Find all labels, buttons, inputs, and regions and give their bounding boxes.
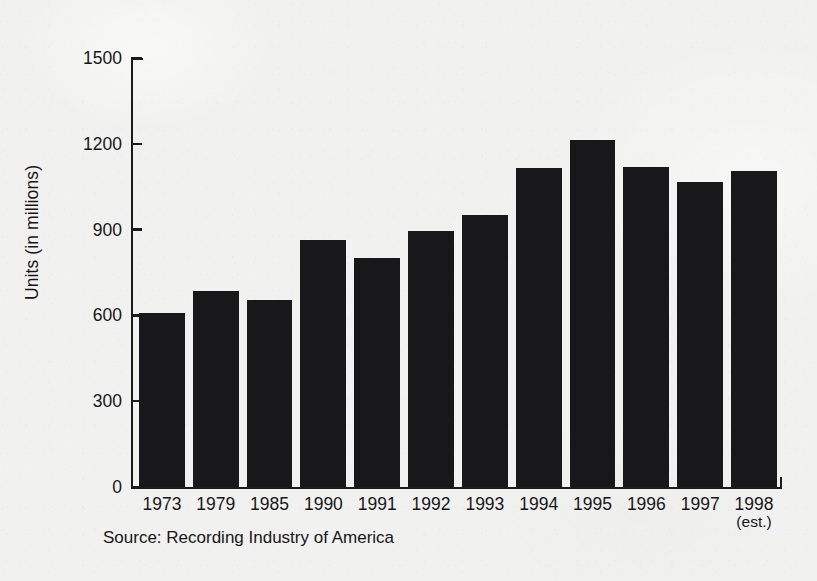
bar-1991 [354,258,400,487]
bar-1995 [570,140,616,487]
x-axis-label-text: 1979 [196,494,235,514]
bar-column-1973 [139,58,185,487]
x-axis-label-1996: 1996 [623,495,669,531]
x-axis-label-1997: 1997 [677,495,723,531]
x-axis-label-text: 1991 [358,494,397,514]
bar-1993 [462,215,508,487]
y-axis-title: Units (in millions) [22,123,43,343]
x-axis-label-1973: 1973 [139,495,185,531]
x-axis-label-text: 1997 [681,494,720,514]
x-axis-sublabel-1998: (est.) [731,514,777,531]
x-axis-label-1993: 1993 [462,495,508,531]
x-axis-label-1994: 1994 [516,495,562,531]
y-tick-label-300: 300 [93,391,122,412]
x-axis-label-1991: 1991 [354,495,400,531]
bar-column-1979 [193,58,239,487]
bar-column-1996 [623,58,669,487]
x-axis-label-text: 1973 [142,494,181,514]
x-axis-label-text: 1998 [735,494,774,514]
bar-column-1990 [300,58,346,487]
x-axis-line [131,487,782,489]
bar-series [135,58,782,487]
bar-column-1995 [570,58,616,487]
y-tick-label-1200: 1200 [83,133,122,154]
y-tick-label-900: 900 [93,219,122,240]
bar-1998 [731,171,777,487]
bar-1992 [408,231,454,487]
bar-1990 [300,240,346,487]
x-axis-label-1979: 1979 [193,495,239,531]
y-tick-label-1500: 1500 [83,48,122,69]
x-axis-label-text: 1985 [250,494,289,514]
y-tick-label-600: 600 [93,305,122,326]
y-tick-label-0: 0 [112,476,122,497]
bar-1994 [516,168,562,487]
x-axis-label-text: 1993 [465,494,504,514]
x-axis-label-1990: 1990 [300,495,346,531]
x-axis-label-1995: 1995 [570,495,616,531]
y-axis-line [131,58,133,487]
bar-column-1994 [516,58,562,487]
bar-column-1985 [247,58,293,487]
bar-1979 [193,291,239,487]
bar-1997 [677,182,723,487]
x-axis-label-text: 1995 [573,494,612,514]
bar-column-1998 [731,58,777,487]
bar-1973 [139,313,185,487]
x-axis-label-text: 1992 [412,494,451,514]
bar-column-1992 [408,58,454,487]
source-note: Source: Recording Industry of America [103,528,394,548]
x-axis-label-1998: 1998(est.) [731,495,777,531]
bar-column-1993 [462,58,508,487]
x-axis-label-text: 1996 [627,494,666,514]
x-axis-label-text: 1994 [519,494,558,514]
x-axis-label-text: 1990 [304,494,343,514]
chart-page: Units (in millions) 150012009006003000 1… [0,0,817,581]
bar-1985 [247,300,293,487]
bar-column-1991 [354,58,400,487]
bar-column-1997 [677,58,723,487]
x-axis-label-1992: 1992 [408,495,454,531]
plot-area: 150012009006003000 [131,58,782,487]
x-axis-label-1985: 1985 [247,495,293,531]
x-axis-labels: 1973197919851990199119921993199419951996… [135,495,782,531]
bar-1996 [623,167,669,487]
